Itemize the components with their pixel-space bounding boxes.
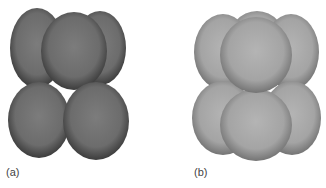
sphere-bottom-left bbox=[8, 82, 70, 158]
sphere-front-top bbox=[41, 12, 107, 90]
panel-a-dark-spheres: (a) bbox=[0, 0, 163, 188]
sphere-packing-a-diagram bbox=[0, 0, 163, 188]
panel-a-label: (a) bbox=[6, 166, 19, 178]
sphere-packing-b-diagram bbox=[163, 0, 326, 188]
sphere-bottom-front bbox=[220, 89, 292, 161]
panel-b-label: (b) bbox=[194, 166, 207, 178]
panel-b-light-spheres: (b) bbox=[163, 0, 326, 188]
sphere-bottom-right bbox=[63, 82, 129, 160]
sphere-top-front bbox=[220, 17, 292, 93]
